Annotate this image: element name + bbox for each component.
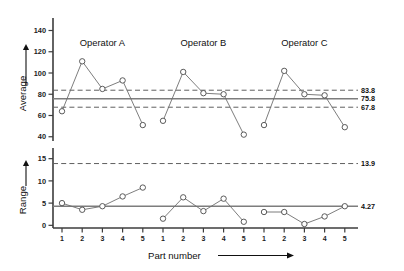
x-tick-label: 5	[242, 235, 246, 242]
data-point	[120, 194, 125, 199]
y-tick-label: 140	[34, 26, 46, 35]
x-tick-label: 1	[262, 235, 266, 242]
y-tick-label: 120	[34, 47, 46, 56]
x-tick-label: 3	[302, 235, 306, 242]
y-tick-label: 80	[38, 90, 46, 99]
data-point	[160, 118, 165, 123]
x-tick-label: 2	[282, 235, 286, 242]
data-point	[241, 132, 246, 137]
data-point	[261, 209, 266, 214]
x-tick-label: 4	[121, 235, 125, 242]
data-point	[241, 219, 246, 224]
control-limit-label-ucl: 13.9	[361, 159, 375, 168]
data-point	[282, 68, 287, 73]
x-tick-label: 5	[141, 235, 145, 242]
control-chart-figure: 40608010012014083.875.867.8AverageOperat…	[0, 0, 404, 271]
data-point	[221, 196, 226, 201]
data-point	[342, 124, 347, 129]
x-tick-label: 1	[161, 235, 165, 242]
x-tick-label: 1	[60, 235, 64, 242]
data-point	[80, 207, 85, 212]
y-tick-label: 60	[38, 111, 46, 120]
x-tick-label: 4	[222, 235, 226, 242]
data-point	[100, 204, 105, 209]
data-point	[100, 86, 105, 91]
operator-group-label-a: Operator A	[80, 37, 126, 48]
data-point	[59, 109, 64, 114]
data-point	[181, 195, 186, 200]
y-tick-label: 100	[34, 69, 46, 78]
data-point	[282, 209, 287, 214]
y-tick-label: 10	[38, 177, 46, 186]
data-point	[221, 92, 226, 97]
data-point	[140, 185, 145, 190]
y-tick-label: 15	[38, 154, 46, 163]
data-point	[140, 122, 145, 127]
data-point	[322, 93, 327, 98]
y-tick-label: 40	[38, 132, 46, 141]
data-point	[201, 208, 206, 213]
data-point	[160, 216, 165, 221]
operator-group-label-c: Operator C	[281, 37, 328, 48]
data-point	[120, 78, 125, 83]
data-point	[59, 200, 64, 205]
data-point	[80, 59, 85, 64]
x-tick-label: 3	[201, 235, 205, 242]
y-tick-label: 5	[42, 199, 46, 208]
data-point	[181, 69, 186, 74]
x-axis-title: Part number	[148, 250, 202, 261]
data-point	[201, 90, 206, 95]
x-tick-label: 3	[100, 235, 104, 242]
y-axis-title-range: Range	[17, 186, 28, 214]
data-point	[342, 204, 347, 209]
data-point	[302, 92, 307, 97]
y-tick-label: 0	[42, 221, 46, 230]
x-tick-label: 2	[181, 235, 185, 242]
data-point	[261, 122, 266, 127]
x-tick-label: 2	[80, 235, 84, 242]
operator-group-label-b: Operator B	[180, 37, 226, 48]
data-point	[322, 214, 327, 219]
x-tick-label: 4	[323, 235, 327, 242]
chart-svg: 40608010012014083.875.867.8AverageOperat…	[0, 0, 404, 271]
data-point	[302, 221, 307, 226]
control-limit-label-lcl: 67.8	[361, 103, 375, 112]
x-tick-label: 5	[343, 235, 347, 242]
control-limit-label-center: 4.27	[361, 202, 375, 211]
